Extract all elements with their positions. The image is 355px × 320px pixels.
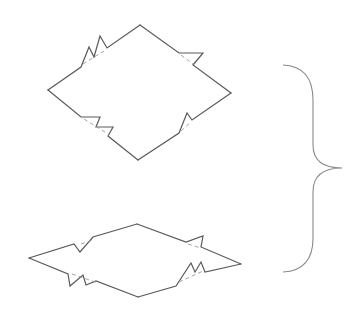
diagram-canvas — [0, 0, 355, 320]
grouping-brace — [283, 65, 342, 272]
lower-edge-top-left — [29, 224, 137, 258]
lower-rhombus — [29, 224, 241, 297]
upper-edge-top-right — [140, 25, 231, 93]
lower-edge-bottom-right — [138, 262, 241, 297]
upper-edge-top-left — [48, 25, 140, 90]
upper-break-dash-top-right — [181, 55, 193, 64]
lower-edge-bottom-left — [29, 258, 138, 297]
lower-break-dash-top-right — [188, 244, 201, 248]
upper-edge-bottom-right — [138, 93, 231, 160]
diagram-svg — [0, 0, 355, 320]
upper-rhombus — [48, 25, 231, 160]
